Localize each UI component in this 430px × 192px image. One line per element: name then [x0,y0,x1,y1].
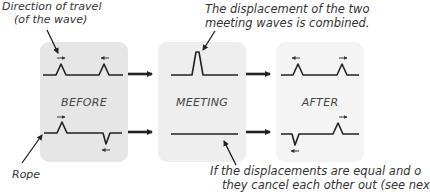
rope-before-bottom [44,122,122,144]
cancel-label-line1: If the displacements are equal and o [210,165,421,178]
cancel-label-line2: they cancel each other out (see nex [222,179,430,192]
rope-label: Rope [12,168,40,181]
pointer-arrow-rope-icon [22,135,42,163]
rope-before-top [43,64,123,75]
pointer-arrow-cancel-icon [224,141,236,165]
pointer-arrow-direction-icon [47,30,58,53]
rope-after-top [281,64,359,75]
pointer-arrow-combined-icon [203,31,215,50]
rope-after-bottom [281,123,359,145]
rope-meeting-top [171,52,238,75]
